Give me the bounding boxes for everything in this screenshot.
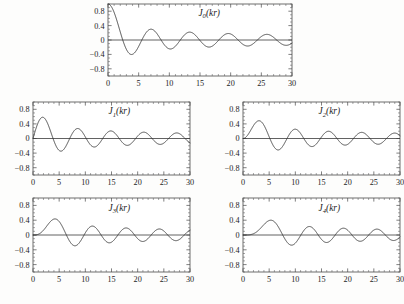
x-tick-label: 15: [317, 178, 325, 187]
y-tick-label: 0.4: [19, 120, 29, 129]
plot-panel-j2: 051015202530−0.8−0.400.40.8J2(kr): [215, 99, 404, 188]
y-tick-label: 0.4: [229, 216, 239, 225]
y-tick-label: 0: [235, 134, 239, 143]
x-tick-label: 15: [107, 275, 115, 284]
x-tick-label: 20: [227, 79, 235, 88]
y-tick-label: 0.4: [19, 216, 29, 225]
y-tick-label: 0: [100, 36, 104, 45]
y-tick-label: 0: [25, 231, 29, 240]
x-tick-label: 0: [241, 275, 245, 284]
y-tick-label: 0.8: [229, 201, 239, 210]
y-tick-label: −0.8: [15, 164, 30, 173]
x-tick-label: 0: [106, 79, 110, 88]
y-tick-label: −0.4: [15, 149, 30, 158]
x-tick-label: 25: [160, 275, 168, 284]
x-tick-label: 0: [241, 178, 245, 187]
function-label: J4(kr): [319, 203, 341, 214]
x-tick-label: 10: [291, 275, 299, 284]
y-tick-label: 0.8: [19, 201, 29, 210]
x-tick-label: 20: [344, 178, 352, 187]
x-tick-label: 20: [134, 275, 142, 284]
y-tick-label: 0.8: [229, 105, 239, 114]
x-tick-label: 20: [134, 178, 142, 187]
function-label: J3(kr): [109, 203, 131, 214]
y-tick-label: −0.8: [225, 164, 240, 173]
x-tick-label: 10: [81, 275, 89, 284]
y-tick-label: 0: [235, 231, 239, 240]
x-tick-label: 0: [31, 275, 35, 284]
x-tick-label: 15: [317, 275, 325, 284]
x-tick-label: 25: [370, 178, 378, 187]
x-tick-label: 15: [196, 79, 204, 88]
y-tick-label: −0.8: [15, 261, 30, 270]
function-label: J0(kr): [198, 8, 220, 19]
plot-panel-j4: 051015202530−0.8−0.400.40.8J4(kr): [215, 195, 404, 285]
plot-panel-j1: 051015202530−0.8−0.400.40.8J1(kr): [5, 99, 194, 188]
y-tick-label: 0: [25, 134, 29, 143]
y-tick-label: 0.4: [229, 120, 239, 129]
x-tick-label: 10: [81, 178, 89, 187]
x-tick-label: 5: [137, 79, 141, 88]
x-tick-label: 30: [186, 178, 194, 187]
x-tick-label: 30: [288, 79, 296, 88]
function-label: J2(kr): [319, 106, 341, 117]
x-tick-label: 0: [31, 178, 35, 187]
x-tick-label: 15: [107, 178, 115, 187]
x-tick-label: 25: [160, 178, 168, 187]
x-tick-label: 30: [396, 178, 404, 187]
y-tick-label: −0.4: [15, 246, 30, 255]
x-tick-label: 30: [186, 275, 194, 284]
x-tick-label: 5: [267, 178, 271, 187]
y-tick-label: −0.4: [225, 246, 240, 255]
x-tick-label: 10: [291, 178, 299, 187]
y-tick-label: −0.8: [225, 261, 240, 270]
x-tick-label: 10: [165, 79, 173, 88]
y-tick-label: −0.4: [90, 50, 105, 59]
x-tick-label: 25: [257, 79, 265, 88]
x-tick-label: 5: [57, 275, 61, 284]
x-tick-label: 5: [267, 275, 271, 284]
x-tick-label: 5: [57, 178, 61, 187]
y-tick-label: 0.4: [94, 22, 104, 31]
x-tick-label: 20: [344, 275, 352, 284]
x-tick-label: 25: [370, 275, 378, 284]
bessel-function-figure: 051015202530−0.8−0.400.40.8J0(kr)0510152…: [0, 0, 404, 304]
y-tick-label: −0.4: [225, 149, 240, 158]
x-tick-label: 30: [396, 275, 404, 284]
plot-panel-j0: 051015202530−0.8−0.400.40.8J0(kr): [80, 1, 296, 89]
y-tick-label: 0.8: [19, 105, 29, 114]
y-tick-label: 0.8: [94, 7, 104, 16]
plot-panel-j3: 051015202530−0.8−0.400.40.8J3(kr): [5, 195, 194, 285]
y-tick-label: −0.8: [90, 65, 105, 74]
function-label: J1(kr): [109, 106, 131, 117]
